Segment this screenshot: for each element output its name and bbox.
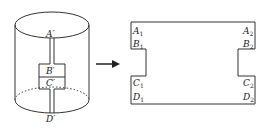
label-b-prime: B′ (45, 66, 55, 76)
label-b2: B2 (242, 39, 254, 50)
label-d-prime: D′ (45, 114, 55, 124)
cylinder (15, 12, 89, 113)
diagram-canvas: A′ B′ C′ D′ A1 B1 C1 D1 A2 B2 C2 D2 (0, 0, 267, 129)
label-a2: A2 (242, 26, 254, 37)
label-d2: D2 (242, 92, 254, 103)
cylinder-bottom-front (15, 100, 89, 113)
label-a1: A1 (132, 26, 143, 37)
label-c-prime: C′ (46, 78, 55, 88)
label-d1: D1 (132, 92, 144, 103)
right-arrow-icon (96, 60, 120, 68)
label-c2: C2 (243, 78, 254, 89)
cylinder-bottom-back (15, 87, 89, 100)
label-c1: C1 (133, 78, 144, 89)
label-a-prime: A′ (45, 29, 55, 39)
label-b1: B1 (132, 39, 143, 50)
unrolled-net (131, 22, 255, 104)
